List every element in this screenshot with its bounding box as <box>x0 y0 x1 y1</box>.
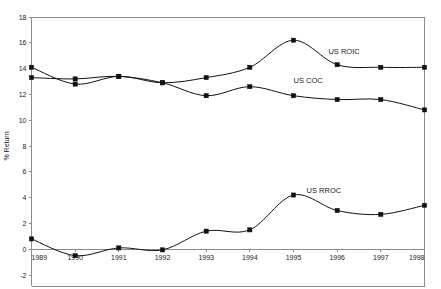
x-tick-label: 1998 <box>409 254 425 261</box>
series-line <box>32 195 425 256</box>
x-tick-label: 1989 <box>32 254 48 261</box>
series-label: US ROIC <box>328 47 360 56</box>
data-point-marker <box>29 76 33 80</box>
y-axis-title: % Return <box>3 131 10 160</box>
x-tick-label: 1992 <box>155 254 171 261</box>
data-point-marker <box>117 246 121 250</box>
data-point-marker <box>160 81 164 85</box>
series-label: US RROC <box>307 186 342 195</box>
data-point-marker <box>73 77 77 81</box>
y-tick-label: 2 <box>23 220 27 227</box>
data-point-marker <box>422 65 426 69</box>
x-tick-label: 1997 <box>373 254 389 261</box>
x-tick-label: 1993 <box>198 254 214 261</box>
y-tick-label: 10 <box>19 117 27 124</box>
y-tick-label: 6 <box>23 168 27 175</box>
y-tick-label: -2 <box>20 272 26 279</box>
y-tick-label: 12 <box>19 91 27 98</box>
data-point-marker <box>379 97 383 101</box>
x-axis: 1989199019911992199319941995199619971998 <box>32 249 425 261</box>
y-tick-label: 16 <box>19 39 27 46</box>
data-point-marker <box>422 203 426 207</box>
x-tick-label: 1995 <box>286 254 302 261</box>
series-us-roic <box>29 38 426 86</box>
data-point-marker <box>117 74 121 78</box>
data-point-marker <box>73 254 77 258</box>
data-point-marker <box>204 76 208 80</box>
x-tick-label: 1994 <box>242 254 258 261</box>
data-point-marker <box>291 193 295 197</box>
data-point-marker <box>29 237 33 241</box>
y-tick-label: 4 <box>23 194 27 201</box>
data-point-marker <box>291 38 295 42</box>
data-point-marker <box>422 108 426 112</box>
y-tick-label: 0 <box>23 246 27 253</box>
data-point-marker <box>291 94 295 98</box>
data-point-marker <box>204 229 208 233</box>
data-point-marker <box>379 65 383 69</box>
series-us-rroc <box>29 193 426 258</box>
data-point-marker <box>160 248 164 252</box>
series-line <box>32 76 425 110</box>
data-point-marker <box>248 85 252 89</box>
y-tick-label: 18 <box>19 14 27 21</box>
chart-container: -2024681012141618% Return198919901991199… <box>0 0 441 289</box>
data-point-marker <box>335 63 339 67</box>
data-point-marker <box>73 82 77 86</box>
data-point-marker <box>335 97 339 101</box>
x-tick-label: 1996 <box>329 254 345 261</box>
x-tick-label: 1991 <box>111 254 127 261</box>
data-point-marker <box>204 94 208 98</box>
y-tick-label: 8 <box>23 143 27 150</box>
data-point-marker <box>29 65 33 69</box>
series-us-coc <box>29 74 426 112</box>
y-tick-label: 14 <box>19 65 27 72</box>
data-point-marker <box>335 208 339 212</box>
data-point-marker <box>248 228 252 232</box>
data-point-marker <box>379 212 383 216</box>
line-chart: -2024681012141618% Return198919901991199… <box>0 0 441 289</box>
series-label: US COC <box>294 76 324 85</box>
data-point-marker <box>248 65 252 69</box>
chart-frame <box>32 17 425 286</box>
